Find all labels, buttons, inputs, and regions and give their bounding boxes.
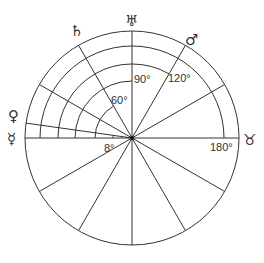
center-point (130, 136, 134, 140)
label-90: 90° (134, 73, 151, 85)
spoke-venus-8 (26, 123, 132, 138)
taurus-symbol-icon: ♉ (243, 131, 256, 149)
aspect-circle-diagram: 8° 60° 90° 120° 180° ☿ ♀ ♄ ♅ ♂ ♉ (0, 0, 264, 263)
saturn-symbol-icon: ♄ (70, 22, 83, 40)
mars-symbol-icon: ♂ (185, 31, 198, 49)
label-8: 8° (104, 142, 115, 154)
mercury-symbol-icon: ☿ (7, 130, 16, 148)
uranus-symbol-icon: ♅ (125, 12, 138, 30)
label-180: 180° (210, 141, 233, 153)
venus-symbol-icon: ♀ (8, 107, 19, 125)
label-60: 60° (111, 94, 128, 106)
label-120: 120° (168, 72, 191, 84)
